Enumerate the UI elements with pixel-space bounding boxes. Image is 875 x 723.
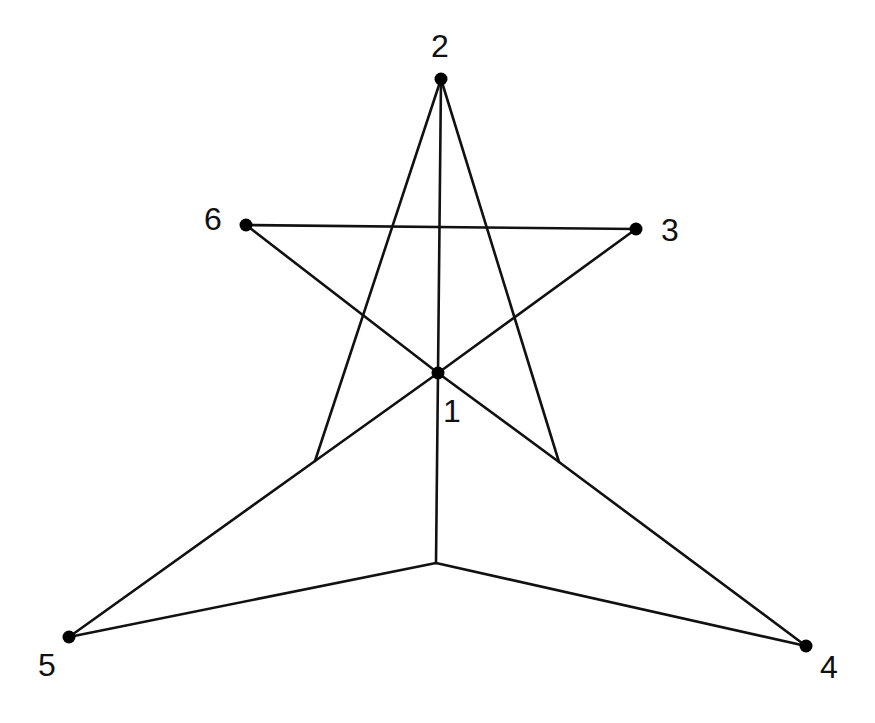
node-label-6: 6 xyxy=(204,201,222,237)
node-2 xyxy=(435,73,448,86)
node-4 xyxy=(800,640,813,653)
edge-bB-5 xyxy=(69,563,436,637)
edge-2-bB xyxy=(436,79,441,563)
node-label-5: 5 xyxy=(38,647,56,683)
node-1 xyxy=(432,367,445,380)
node-label-3: 3 xyxy=(661,212,679,248)
node-label-4: 4 xyxy=(820,649,838,685)
edges-group xyxy=(69,79,806,646)
node-3 xyxy=(630,223,643,236)
node-6 xyxy=(240,219,253,232)
node-label-1: 1 xyxy=(443,393,461,429)
node-5 xyxy=(63,631,76,644)
node-label-2: 2 xyxy=(431,28,449,64)
graph-diagram: 123456 xyxy=(0,0,875,723)
edge-6-3 xyxy=(246,225,636,229)
edge-2-bL xyxy=(315,79,441,461)
